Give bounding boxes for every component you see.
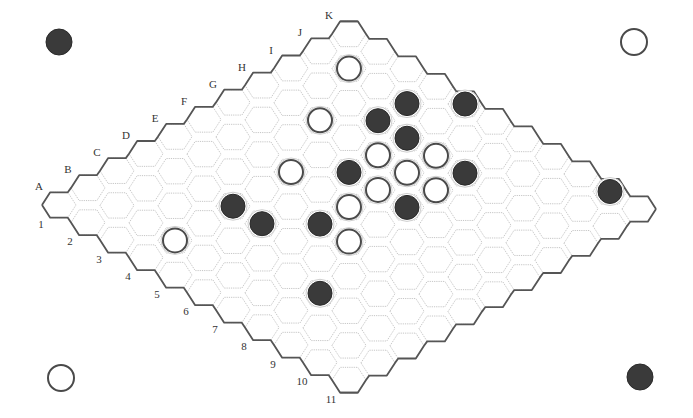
hex-cell-C6[interactable] bbox=[245, 246, 279, 271]
stone-icon bbox=[337, 160, 361, 184]
black-stone-G5[interactable] bbox=[335, 158, 363, 186]
hex-cell-J6[interactable] bbox=[448, 126, 482, 151]
column-label-D: D bbox=[122, 129, 130, 141]
column-label-B: B bbox=[64, 163, 71, 175]
hex-cell-C5[interactable] bbox=[216, 228, 250, 253]
row-label-11: 11 bbox=[326, 393, 337, 405]
hex-cell-D6[interactable] bbox=[274, 229, 308, 254]
hex-cell-F2[interactable] bbox=[216, 124, 250, 149]
hex-cell-B9[interactable] bbox=[303, 315, 337, 340]
column-label-J: J bbox=[298, 26, 303, 38]
row-label-7: 7 bbox=[212, 323, 218, 335]
corner-marker-top-right-white bbox=[621, 29, 647, 55]
stone-icon bbox=[337, 195, 361, 219]
hex-cell-B5[interactable] bbox=[187, 245, 221, 270]
hex-cell-I2[interactable] bbox=[303, 73, 337, 98]
hex-cell-H2[interactable] bbox=[274, 90, 308, 115]
white-stone-H6[interactable] bbox=[393, 159, 421, 187]
stone-icon bbox=[395, 126, 419, 150]
hex-cell-J10[interactable] bbox=[564, 196, 598, 221]
hex-cell-D2[interactable] bbox=[158, 159, 192, 184]
hex-cell-H4[interactable] bbox=[332, 125, 366, 150]
hex-cell-B8[interactable] bbox=[274, 298, 308, 323]
hex-cell-F8[interactable] bbox=[390, 229, 424, 254]
black-stone-D5[interactable] bbox=[248, 210, 276, 238]
hex-cell-H9[interactable] bbox=[477, 213, 511, 238]
white-stone-I6[interactable] bbox=[422, 142, 450, 170]
hex-cell-I9[interactable] bbox=[506, 196, 540, 221]
white-stone-H3[interactable] bbox=[306, 106, 334, 134]
hex-cell-F3[interactable] bbox=[245, 142, 279, 167]
black-stone-J4[interactable] bbox=[393, 90, 421, 118]
white-stone-H5[interactable] bbox=[364, 141, 392, 169]
row-label-8: 8 bbox=[241, 340, 247, 352]
black-stone-G7[interactable] bbox=[393, 193, 421, 221]
column-label-F: F bbox=[181, 95, 187, 107]
hex-cell-F10[interactable] bbox=[448, 264, 482, 289]
hex-cell-J9[interactable] bbox=[535, 178, 569, 203]
white-stone-G6[interactable] bbox=[364, 176, 392, 204]
hex-cell-D7[interactable] bbox=[303, 246, 337, 271]
black-stone-E6[interactable] bbox=[306, 210, 334, 238]
hex-cell-G8[interactable] bbox=[419, 212, 453, 237]
hex-cell-C7[interactable] bbox=[274, 263, 308, 288]
black-stone-I7[interactable] bbox=[451, 159, 479, 187]
hex-cell-E10[interactable] bbox=[419, 281, 453, 306]
black-stone-I5[interactable] bbox=[393, 124, 421, 152]
hex-cell-C2[interactable] bbox=[129, 176, 163, 201]
corner-marker-top-left-black bbox=[46, 29, 72, 55]
hex-cell-H8[interactable] bbox=[448, 195, 482, 220]
hex-cell-D8[interactable] bbox=[332, 264, 366, 289]
hex-cell-I3[interactable] bbox=[332, 91, 366, 116]
stone-icon bbox=[308, 281, 332, 305]
black-stone-C8[interactable] bbox=[306, 279, 334, 307]
white-stone-F6[interactable] bbox=[335, 193, 363, 221]
black-stone-K10[interactable] bbox=[596, 178, 624, 206]
stone-icon bbox=[337, 230, 361, 254]
white-stone-J2[interactable] bbox=[335, 55, 363, 83]
hex-cell-G3[interactable] bbox=[274, 125, 308, 150]
black-stone-K5[interactable] bbox=[451, 90, 479, 118]
stone-icon bbox=[395, 92, 419, 116]
hex-cell-E3[interactable] bbox=[216, 159, 250, 184]
hex-cell-D9[interactable] bbox=[361, 281, 395, 306]
hex-cell-G9[interactable] bbox=[448, 230, 482, 255]
white-stone-H7[interactable] bbox=[422, 176, 450, 204]
hex-cell-B2[interactable] bbox=[100, 193, 134, 218]
white-stone-F4[interactable] bbox=[277, 158, 305, 186]
hex-cell-B7[interactable] bbox=[245, 280, 279, 305]
black-stone-D4[interactable] bbox=[219, 192, 247, 220]
white-stone-E7[interactable] bbox=[335, 228, 363, 256]
hex-cell-F9[interactable] bbox=[419, 247, 453, 272]
hex-cell-H10[interactable] bbox=[506, 230, 540, 255]
hex-cell-G10[interactable] bbox=[477, 247, 511, 272]
hex-cell-C10[interactable] bbox=[361, 316, 395, 341]
hex-cell-I8[interactable] bbox=[477, 178, 511, 203]
black-stone-I4[interactable] bbox=[364, 107, 392, 135]
column-label-I: I bbox=[269, 44, 273, 56]
hex-cell-B3[interactable] bbox=[129, 210, 163, 235]
hex-cell-F7[interactable] bbox=[361, 212, 395, 237]
white-stone-B4[interactable] bbox=[161, 226, 189, 254]
hex-cell-C9[interactable] bbox=[332, 298, 366, 323]
hex-cell-J8[interactable] bbox=[506, 161, 540, 186]
hex-cell-G4[interactable] bbox=[303, 142, 337, 167]
hex-cell-C4[interactable] bbox=[187, 211, 221, 236]
hex-cell-G2[interactable] bbox=[245, 107, 279, 132]
hex-cell-J7[interactable] bbox=[477, 143, 511, 168]
hex-cell-J5[interactable] bbox=[419, 108, 453, 133]
hex-cell-C3[interactable] bbox=[158, 193, 192, 218]
hex-cell-J3[interactable] bbox=[361, 73, 395, 98]
hex-cell-I10[interactable] bbox=[535, 213, 569, 238]
hex-cell-E5[interactable] bbox=[274, 194, 308, 219]
hex-cell-D10[interactable] bbox=[390, 299, 424, 324]
hex-cell-B10[interactable] bbox=[332, 333, 366, 358]
hex-cell-D3[interactable] bbox=[187, 176, 221, 201]
hex-cell-F5[interactable] bbox=[303, 177, 337, 202]
hex-cell-B6[interactable] bbox=[216, 263, 250, 288]
stone-icon bbox=[308, 108, 332, 132]
hex-cell-E4[interactable] bbox=[245, 176, 279, 201]
hex-cell-E9[interactable] bbox=[390, 264, 424, 289]
hex-cell-E8[interactable] bbox=[361, 246, 395, 271]
hex-cell-E2[interactable] bbox=[187, 141, 221, 166]
